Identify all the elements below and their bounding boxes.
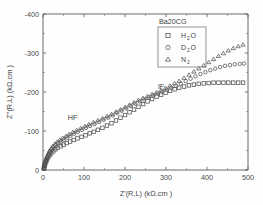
data-point-circle <box>204 70 208 74</box>
data-point-square <box>241 81 245 85</box>
data-point-triangle <box>206 60 210 63</box>
data-point-triangle <box>211 57 215 60</box>
x-tick-label: 400 <box>201 173 213 182</box>
data-point-circle <box>233 63 237 67</box>
data-point-circle <box>199 72 203 76</box>
annotation-hf: HF <box>68 113 78 122</box>
data-point-square <box>212 81 216 85</box>
data-point-square <box>227 81 231 85</box>
data-point-triangle <box>236 44 240 47</box>
nyquist-impedance-chart: 0100200300400500 0-100-200-300-400 HFIF … <box>0 0 263 205</box>
data-point-circle <box>218 65 222 69</box>
legend-label-H2O: H <box>181 32 186 39</box>
data-point-square <box>187 84 191 88</box>
data-point-triangle <box>182 76 186 79</box>
data-point-square <box>96 128 100 132</box>
data-series-group <box>42 43 246 171</box>
data-point-triangle <box>192 70 196 73</box>
data-point-square <box>207 81 211 85</box>
data-point-square <box>92 130 96 134</box>
data-point-triangle <box>216 54 220 57</box>
data-point-circle <box>166 45 170 49</box>
data-point-square <box>128 111 132 115</box>
legend-item-N2[interactable]: N2 <box>165 56 190 65</box>
data-point-triangle <box>241 43 245 46</box>
y-tick-label: -100 <box>25 127 39 136</box>
y-axis-label: Z''(R,L) (kΩ.cm ) <box>5 65 14 119</box>
data-point-triangle <box>165 57 170 61</box>
data-point-triangle <box>221 51 225 54</box>
chart-legend: Ba20CGH2OD2ON2 <box>158 17 206 68</box>
legend-title: Ba20CG <box>159 17 187 26</box>
legend-item-H2O[interactable]: H2O <box>166 32 197 41</box>
data-point-square <box>146 100 150 104</box>
data-point-circle <box>242 62 246 66</box>
data-point-square <box>177 86 181 90</box>
x-tick-labels: 0100200300400500 <box>41 173 254 182</box>
data-point-circle <box>184 79 188 83</box>
data-point-square <box>80 135 84 139</box>
legend-label-N2: N <box>181 56 186 63</box>
data-point-square <box>119 116 123 120</box>
data-point-square <box>202 82 206 86</box>
data-point-square <box>101 126 105 130</box>
x-tick-label: 100 <box>78 173 90 182</box>
series-H2O <box>42 81 245 171</box>
x-tick-label: 0 <box>41 173 45 182</box>
x-tick-label: 200 <box>119 173 131 182</box>
data-point-square <box>236 81 240 85</box>
figure-container: 0100200300400500 0-100-200-300-400 HFIF … <box>0 0 263 205</box>
annotation-if: IF <box>158 82 165 91</box>
y-tick-label: 0 <box>35 166 39 175</box>
data-point-circle <box>223 64 227 68</box>
data-point-square <box>141 102 145 106</box>
data-point-triangle <box>187 73 191 76</box>
y-tick-labels: 0-100-200-300-400 <box>25 10 39 175</box>
axis-ticks <box>43 14 248 170</box>
data-point-square <box>222 81 226 85</box>
data-point-circle <box>228 63 232 67</box>
legend-tail-D2O: O <box>191 44 197 51</box>
data-point-triangle <box>226 49 230 52</box>
data-point-square <box>110 121 114 125</box>
data-point-circle <box>238 62 242 66</box>
data-point-square <box>132 108 136 112</box>
data-point-square <box>217 81 221 85</box>
data-point-circle <box>213 67 217 71</box>
data-point-square <box>72 138 76 142</box>
plot-frame <box>43 14 248 170</box>
x-tick-label: 500 <box>242 173 254 182</box>
data-point-square <box>105 124 109 128</box>
data-point-square <box>88 132 92 136</box>
x-axis-label: Z'(R,L) (kΩ.cm ) <box>120 189 173 198</box>
legend-subscript-N2: 2 <box>187 60 190 65</box>
legend-label-D2O: D <box>181 44 186 51</box>
data-point-square <box>114 119 118 123</box>
data-point-square <box>192 83 196 87</box>
data-point-square <box>182 85 186 89</box>
data-point-square <box>84 134 88 138</box>
data-point-square <box>197 82 201 86</box>
y-tick-label: -200 <box>25 88 39 97</box>
data-point-circle <box>194 75 198 79</box>
data-point-square <box>123 113 127 117</box>
legend-tail-H2O: O <box>191 32 197 39</box>
data-point-square <box>137 105 141 109</box>
data-point-triangle <box>177 79 181 82</box>
data-point-triangle <box>202 63 206 66</box>
data-point-square <box>231 81 235 85</box>
x-tick-label: 300 <box>160 173 172 182</box>
legend-item-D2O[interactable]: D2O <box>166 44 197 53</box>
data-point-triangle <box>231 46 235 49</box>
y-tick-label: -400 <box>25 10 39 19</box>
data-point-square <box>76 137 80 141</box>
y-tick-label: -300 <box>25 49 39 58</box>
data-point-circle <box>189 77 193 81</box>
plot-annotations: HFIF <box>68 82 165 122</box>
data-point-circle <box>209 68 213 72</box>
data-point-square <box>166 33 170 37</box>
